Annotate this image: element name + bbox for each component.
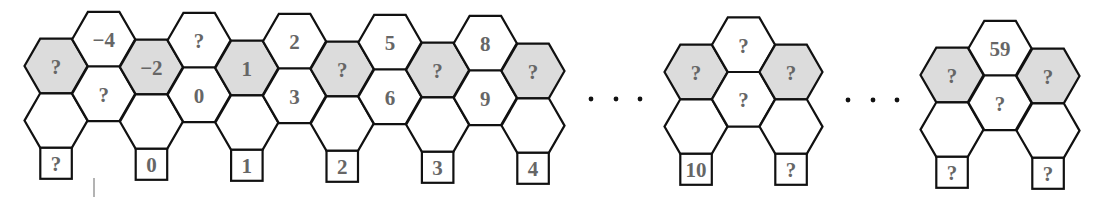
middle-hexagon-label: 0 <box>194 84 205 108</box>
group-3: ??59??? <box>921 21 1080 189</box>
top-hexagon-label: −4 <box>92 28 115 52</box>
middle-hexagon-label: ? <box>738 88 749 112</box>
shaded-hexagon-label: ? <box>337 58 348 82</box>
ellipsis-dot <box>614 97 619 102</box>
middle-hexagon-label: 6 <box>385 86 396 110</box>
ellipsis-dot <box>895 98 900 103</box>
shaded-hexagon-label: ? <box>691 61 702 85</box>
answer-box-label: 1 <box>242 154 253 178</box>
shaded-hexagon-label: 1 <box>242 57 253 81</box>
top-hexagon-label: ? <box>194 29 205 53</box>
top-hexagon-label: ? <box>738 34 749 58</box>
top-hexagon-label: 5 <box>385 31 396 55</box>
middle-hexagon-label: 9 <box>480 87 491 111</box>
answer-box-label: 10 <box>686 158 707 182</box>
answer-box-label: ? <box>1043 162 1054 186</box>
shaded-hexagon-label: ? <box>528 60 539 84</box>
top-hexagon-label: 59 <box>990 37 1011 61</box>
group-1: ??−4?−20?01123?256?389?4 <box>25 12 565 184</box>
answer-box-label: ? <box>51 152 62 176</box>
middle-hexagon-label: 3 <box>289 85 300 109</box>
answer-box-label: 2 <box>337 155 348 179</box>
answer-box-label: ? <box>786 158 797 182</box>
middle-hexagon-label: ? <box>98 83 109 107</box>
answer-box-label: 0 <box>146 153 157 177</box>
ellipsis-1 <box>589 97 643 102</box>
group-2: ?10???? <box>665 17 823 184</box>
answer-box-label: ? <box>947 161 958 185</box>
answer-box-label: 4 <box>528 157 539 181</box>
hexagon-puzzle-canvas: ??−4?−20?01123?256?389?4?10??????59??? <box>0 0 1101 198</box>
ellipsis-dot <box>846 98 851 103</box>
shaded-hexagon-label: −2 <box>140 56 162 80</box>
shaded-hexagon-label: ? <box>1043 65 1054 89</box>
shaded-hexagon-label: ? <box>51 55 62 79</box>
ellipsis-dot <box>638 97 643 102</box>
shaded-hexagon-label: ? <box>432 59 443 83</box>
top-hexagon-label: 8 <box>480 32 491 56</box>
ellipsis-2 <box>846 98 900 103</box>
shaded-hexagon-label: ? <box>947 64 958 88</box>
shaded-hexagon-label: ? <box>786 61 797 85</box>
ellipsis-dot <box>871 98 876 103</box>
top-hexagon-label: 2 <box>289 30 300 54</box>
middle-hexagon-label: ? <box>995 92 1006 116</box>
hexagon-puzzle-figure: ??−4?−20?01123?256?389?4?10??????59??? <box>0 0 1101 198</box>
answer-box-label: 3 <box>432 156 443 180</box>
ellipsis-dot <box>589 97 594 102</box>
